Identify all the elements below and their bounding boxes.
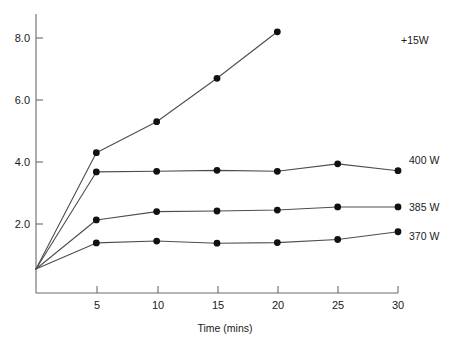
x-axis-tick-labels: 5 10 15 20 25 30: [94, 299, 404, 311]
data-point: [334, 204, 341, 211]
y-tick-label-8: 8.0: [15, 32, 30, 44]
data-point: [214, 75, 221, 82]
x-tick-label-10: 10: [152, 299, 164, 311]
series-line: [36, 32, 277, 269]
y-tick-label-2: 2.0: [15, 218, 30, 230]
series-385-w: [36, 204, 401, 269]
series-line: [36, 164, 398, 269]
data-point: [274, 239, 281, 246]
data-point: [153, 208, 160, 215]
y-axis-tick-labels: 8.0 6.0 4.0 2.0: [15, 32, 30, 230]
data-point: [334, 160, 341, 167]
data-point: [214, 208, 221, 215]
data-point: [93, 240, 100, 247]
y-axis-ticks: [36, 38, 43, 224]
series-line: [36, 232, 398, 269]
x-tick-label-5: 5: [94, 299, 100, 311]
data-point: [334, 236, 341, 243]
series-400-w: [36, 160, 401, 268]
chart-container: 8.0 6.0 4.0 2.0 5 10 15 20 25 30 Time (m…: [0, 0, 450, 343]
data-point: [395, 167, 402, 174]
x-axis-ticks: [97, 286, 398, 293]
data-point: [93, 169, 100, 176]
series-end-labels: +15W 400 W 385 W 370 W: [401, 34, 439, 242]
series-label-370w: 370 W: [409, 230, 439, 242]
x-tick-label-15: 15: [212, 299, 224, 311]
x-tick-label-30: 30: [392, 299, 404, 311]
series-15w: [36, 28, 281, 269]
x-axis-title: Time (mins): [197, 322, 252, 334]
series-label-385w: 385 W: [409, 201, 439, 213]
data-point: [395, 204, 402, 211]
line-chart-plot: 8.0 6.0 4.0 2.0 5 10 15 20 25 30 Time (m…: [0, 0, 450, 343]
x-tick-label-20: 20: [272, 299, 284, 311]
x-tick-label-25: 25: [332, 299, 344, 311]
series-line: [36, 207, 398, 269]
data-point: [214, 167, 221, 174]
data-point: [395, 228, 402, 235]
axes-group: [36, 14, 398, 293]
series-label-400w: 400 W: [409, 154, 439, 166]
series-label-plus15w: +15W: [401, 34, 429, 46]
data-point: [274, 207, 281, 214]
data-point: [214, 240, 221, 247]
data-point: [153, 118, 160, 125]
data-point: [93, 217, 100, 224]
series-370-w: [36, 228, 401, 269]
data-point: [153, 238, 160, 245]
data-point: [274, 168, 281, 175]
y-tick-label-6: 6.0: [15, 94, 30, 106]
y-tick-label-4: 4.0: [15, 156, 30, 168]
data-point: [93, 149, 100, 156]
series-layer: [36, 28, 401, 269]
data-point: [274, 28, 281, 35]
data-point: [153, 168, 160, 175]
